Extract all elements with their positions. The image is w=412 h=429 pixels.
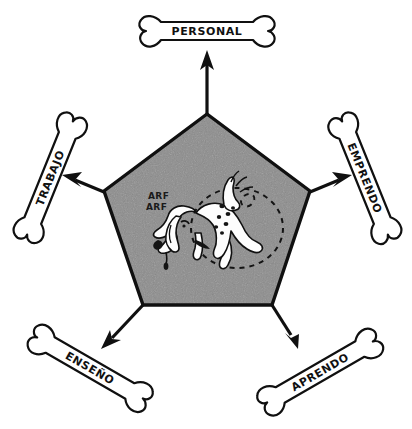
node-label-personal: PERSONAL <box>172 25 243 38</box>
arf-line-1: ARF <box>148 191 169 201</box>
diagram-canvas: ARF ARF <box>0 0 412 429</box>
hand-drawn-diagram: ARF ARF <box>0 0 412 429</box>
arf-line-2: ARF <box>146 202 167 212</box>
